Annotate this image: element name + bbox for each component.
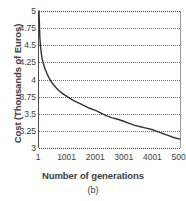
y-tick-label: 4.75 bbox=[14, 24, 36, 33]
cost-curve bbox=[39, 11, 180, 148]
x-tick-label: 5001 bbox=[164, 152, 186, 162]
y-tick-label: 3.5 bbox=[14, 110, 36, 119]
x-axis-title: Number of generations bbox=[0, 170, 186, 181]
y-tick-label: 4.25 bbox=[14, 58, 36, 67]
x-axis-tick-labels: 110012001300140015001 bbox=[0, 152, 186, 166]
y-tick-label: 3.25 bbox=[14, 127, 36, 136]
gridline bbox=[39, 148, 180, 149]
figure-caption: (b) bbox=[0, 185, 186, 195]
y-axis-tick-labels: 54.754.54.2543.753.53.253 bbox=[14, 0, 36, 160]
y-tick-label: 5 bbox=[14, 7, 36, 16]
chart-figure: Cost (Thousands of Euros) 54.754.54.2543… bbox=[0, 0, 186, 201]
y-tick-label: 4 bbox=[14, 76, 36, 85]
plot-area bbox=[38, 11, 181, 148]
y-tick-label: 4.5 bbox=[14, 41, 36, 50]
y-tick-label: 3.75 bbox=[14, 93, 36, 102]
